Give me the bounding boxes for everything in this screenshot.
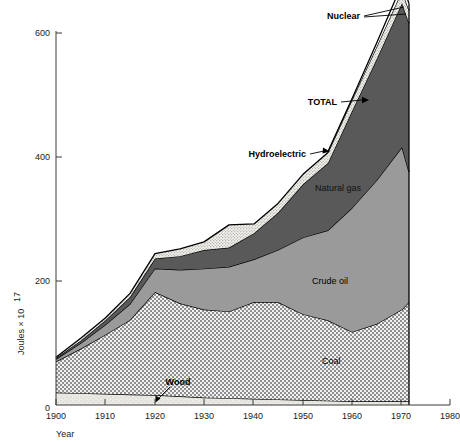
annotation-total-label: TOTAL (308, 97, 338, 107)
x-tick-label-1940: 1940 (243, 411, 263, 421)
chart-canvas: 600 400 200 0 Joules × 10 17 1900 1910 1… (0, 0, 460, 442)
annotation-crude-oil-label: Crude oil (312, 276, 348, 286)
y-tick-label-400: 400 (35, 152, 50, 162)
x-tick-label-1930: 1930 (194, 411, 214, 421)
x-tick-label-1920: 1920 (145, 411, 165, 421)
annotation-natural-gas-label: Natural gas (315, 183, 362, 193)
y-tick-label-200: 200 (35, 276, 50, 286)
annotation-hydroelectric-leader (310, 151, 324, 154)
y-axis-title-exponent: 17 (12, 292, 22, 302)
energy-consumption-area-chart: 600 400 200 0 Joules × 10 17 1900 1910 1… (0, 0, 460, 442)
annotation-nuclear-label: Nuclear (327, 11, 361, 21)
x-tick-label-1960: 1960 (342, 411, 362, 421)
plot-area (56, 0, 409, 405)
x-tick-label-1980: 1980 (440, 411, 460, 421)
y-tick-label-600: 600 (35, 28, 50, 38)
annotation-hydroelectric: Hydroelectric (248, 148, 330, 160)
x-tick-label-1900: 1900 (46, 411, 66, 421)
x-tick-label-1950: 1950 (293, 411, 313, 421)
annotation-hydroelectric-label: Hydroelectric (248, 149, 306, 159)
x-axis: 1900 1910 1920 1930 1940 1950 1960 1970 … (46, 399, 460, 439)
x-tick-label-1970: 1970 (391, 411, 411, 421)
y-axis-title-text: Joules × 10 (16, 309, 26, 355)
annotation-coal-label: Coal (322, 356, 341, 366)
x-axis-title: Year (56, 429, 74, 439)
y-axis-title: Joules × 10 17 (12, 292, 26, 355)
annotation-wood-label: Wood (166, 377, 191, 387)
x-tick-label-1910: 1910 (95, 411, 115, 421)
